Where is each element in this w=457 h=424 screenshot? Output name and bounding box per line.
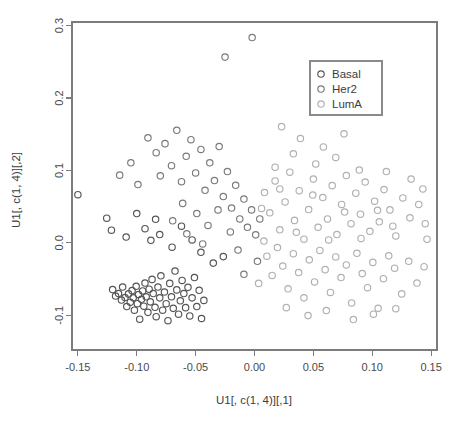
data-point bbox=[341, 209, 347, 215]
data-point bbox=[278, 123, 284, 129]
data-point bbox=[424, 236, 430, 242]
data-point bbox=[390, 223, 396, 229]
data-point bbox=[290, 251, 296, 257]
data-point bbox=[338, 274, 344, 280]
data-point bbox=[350, 316, 356, 322]
data-point bbox=[348, 300, 354, 306]
data-point bbox=[362, 179, 368, 185]
data-point bbox=[367, 228, 373, 234]
data-point bbox=[305, 312, 311, 318]
data-point bbox=[220, 193, 226, 199]
x-axis-title: U1[, c(1, 4)][,1] bbox=[216, 394, 292, 406]
data-point bbox=[400, 195, 406, 201]
data-point bbox=[408, 176, 414, 182]
data-point bbox=[261, 189, 267, 195]
data-point bbox=[267, 210, 273, 216]
data-point bbox=[356, 167, 362, 173]
data-point bbox=[198, 249, 204, 255]
data-point bbox=[420, 186, 426, 192]
data-point bbox=[134, 210, 140, 216]
data-point bbox=[139, 288, 145, 294]
data-point bbox=[116, 172, 122, 178]
data-point bbox=[393, 306, 399, 312]
data-point bbox=[161, 289, 167, 295]
data-point bbox=[189, 295, 195, 301]
legend-label-her2: Her2 bbox=[332, 83, 357, 95]
series-her2 bbox=[116, 34, 263, 277]
data-point bbox=[232, 182, 238, 188]
data-point bbox=[152, 216, 158, 222]
data-point bbox=[285, 286, 291, 292]
data-point bbox=[374, 207, 380, 213]
x-tick-label: 0.10 bbox=[362, 361, 383, 373]
data-point bbox=[334, 231, 340, 237]
data-point bbox=[252, 232, 258, 238]
legend: BasalHer2LumA bbox=[310, 61, 382, 115]
data-point bbox=[333, 254, 339, 260]
data-point bbox=[244, 224, 250, 230]
data-point bbox=[282, 199, 288, 205]
data-point bbox=[205, 222, 211, 228]
data-point bbox=[109, 286, 115, 292]
data-point bbox=[216, 143, 222, 149]
data-point bbox=[322, 266, 328, 272]
data-point bbox=[254, 258, 260, 264]
data-point bbox=[370, 311, 376, 317]
data-point bbox=[169, 218, 175, 224]
data-point bbox=[343, 172, 349, 178]
data-point bbox=[296, 188, 302, 194]
data-point bbox=[184, 231, 190, 237]
data-point bbox=[155, 284, 161, 290]
data-point bbox=[150, 290, 156, 296]
data-point bbox=[196, 287, 202, 293]
data-point bbox=[183, 153, 189, 159]
data-point bbox=[201, 297, 207, 303]
data-point bbox=[108, 227, 114, 233]
data-point bbox=[277, 227, 283, 233]
data-point bbox=[383, 168, 389, 174]
data-point bbox=[386, 253, 392, 259]
data-point bbox=[274, 244, 280, 250]
y-tick-label: 0.1 bbox=[53, 163, 65, 178]
data-point bbox=[422, 220, 428, 226]
data-point bbox=[264, 253, 270, 259]
data-point bbox=[211, 177, 217, 183]
data-point bbox=[202, 187, 208, 193]
data-point bbox=[194, 303, 200, 309]
y-axis-title: U1[, c(1, 4)][,2] bbox=[10, 152, 22, 228]
data-point bbox=[189, 237, 195, 243]
x-tick-label: -0.05 bbox=[183, 361, 208, 373]
data-point bbox=[327, 289, 333, 295]
data-point bbox=[185, 284, 191, 290]
data-point bbox=[364, 285, 370, 291]
legend-label-luma: LumA bbox=[332, 98, 362, 110]
data-point bbox=[169, 244, 175, 250]
x-tick-label: -0.15 bbox=[65, 361, 90, 373]
data-point bbox=[333, 154, 339, 160]
data-point bbox=[258, 205, 264, 211]
data-point bbox=[325, 237, 331, 243]
data-point bbox=[187, 313, 193, 319]
data-point bbox=[167, 280, 173, 286]
data-point bbox=[124, 303, 130, 309]
data-point bbox=[181, 290, 187, 296]
scatter-plot-figure: -0.15-0.10-0.050.000.050.100.15 -0.10.00… bbox=[0, 0, 457, 424]
data-point bbox=[329, 182, 335, 188]
data-point bbox=[158, 273, 164, 279]
data-point bbox=[291, 217, 297, 223]
data-point bbox=[297, 135, 303, 141]
data-point bbox=[162, 140, 168, 146]
data-point bbox=[398, 291, 404, 297]
data-point bbox=[301, 236, 307, 242]
data-point bbox=[359, 270, 365, 276]
data-point bbox=[324, 216, 330, 222]
data-point bbox=[338, 201, 344, 207]
plot-canvas: -0.15-0.10-0.050.000.050.100.15 -0.10.00… bbox=[0, 0, 457, 424]
data-point bbox=[135, 181, 141, 187]
data-point bbox=[194, 210, 200, 216]
data-point bbox=[290, 151, 296, 157]
data-point bbox=[261, 238, 267, 244]
data-point bbox=[198, 146, 204, 152]
data-point bbox=[320, 144, 326, 150]
data-point bbox=[228, 205, 234, 211]
